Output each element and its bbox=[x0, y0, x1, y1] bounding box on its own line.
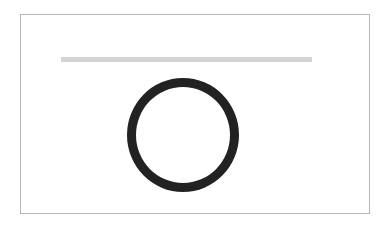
horizontal-bar bbox=[61, 57, 312, 62]
circle-icon bbox=[127, 78, 239, 192]
